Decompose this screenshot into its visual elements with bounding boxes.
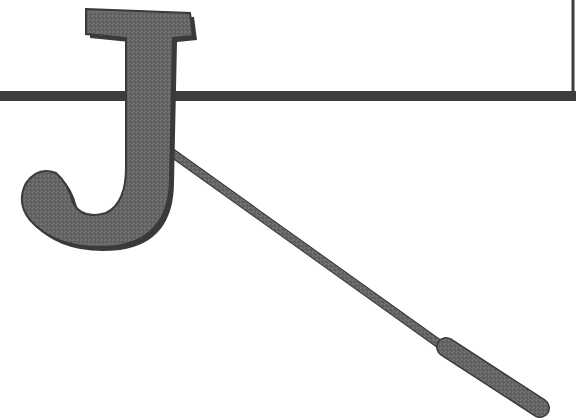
horizontal-bar: [0, 91, 576, 101]
letter-j: [22, 9, 197, 251]
j-hook-graphic: [0, 0, 576, 419]
